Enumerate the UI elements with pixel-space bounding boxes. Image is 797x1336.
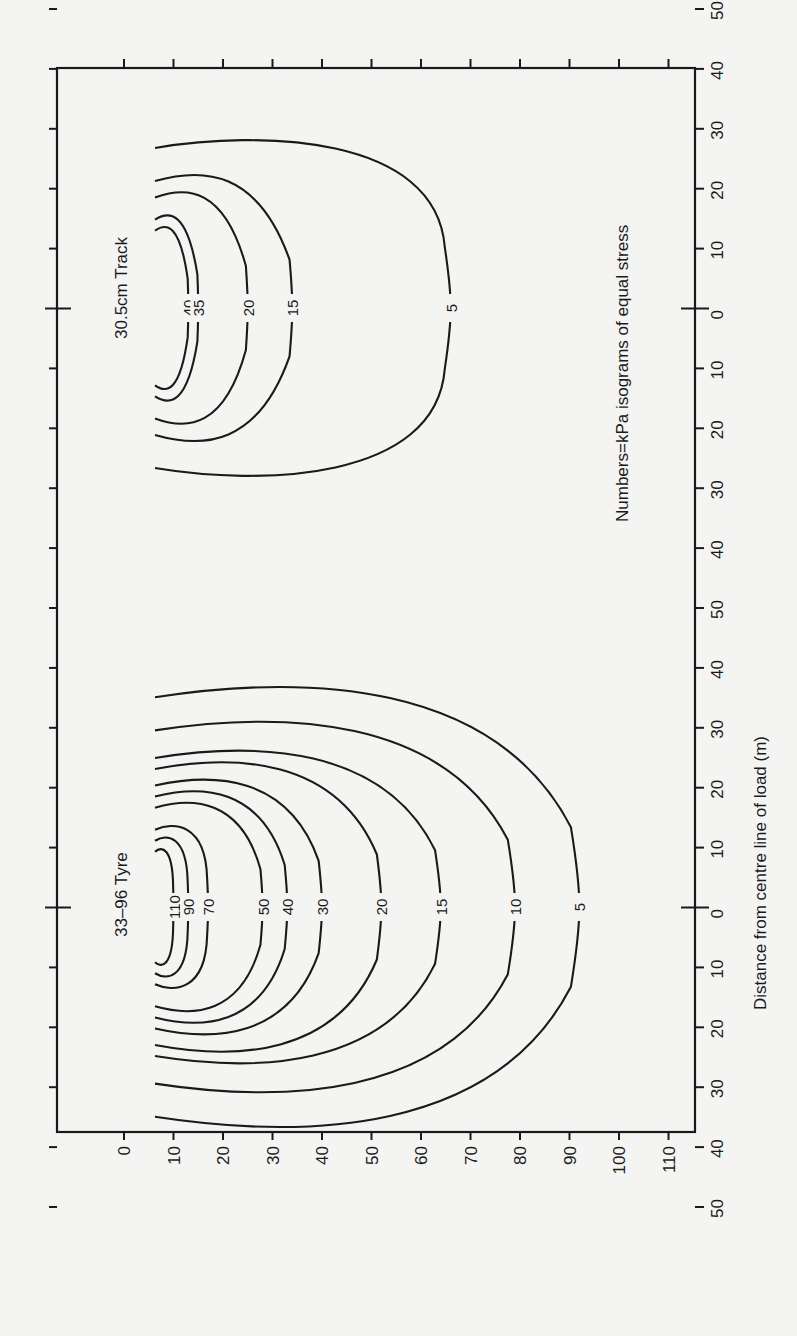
distance-tick-label: 20 xyxy=(708,1019,727,1038)
isogram-annotation: Numbers=kPa isograms of equal stress xyxy=(613,225,632,522)
distance-tick-label: 40 xyxy=(708,660,727,679)
depth-tick-label: 60 xyxy=(412,1146,431,1165)
depth-tick-label: 10 xyxy=(165,1146,184,1165)
isogram-label: 70 xyxy=(200,899,217,916)
depth-tick-label: 0 xyxy=(115,1146,134,1155)
isogram-label: 40 xyxy=(279,899,296,916)
isogram-label: 50 xyxy=(255,899,272,916)
distance-axis-ticks xyxy=(681,9,709,1207)
depth-tick-label: 90 xyxy=(561,1146,580,1165)
distance-tick-label: 0 xyxy=(708,909,727,918)
distance-tick-label: 30 xyxy=(708,1079,727,1098)
isogram-label: 20 xyxy=(373,899,390,916)
plot-frame xyxy=(57,68,695,1132)
distance-tick-label: 50 xyxy=(708,1199,727,1218)
distance-tick-label: 20 xyxy=(708,181,727,200)
isogram-label: 15 xyxy=(284,300,301,317)
depth-tick-label: 70 xyxy=(462,1146,481,1165)
distance-tick-label: 20 xyxy=(708,420,727,439)
tyre-isogram-15 xyxy=(155,751,441,1064)
tyre-label: 33–96 Tyre xyxy=(112,852,131,937)
depth-tick-label: 110 xyxy=(660,1146,679,1173)
distance-tick-label: 30 xyxy=(708,480,727,499)
distance-tick-label: 10 xyxy=(708,360,727,379)
distance-tick-label: 10 xyxy=(708,959,727,978)
distance-tick-label: 30 xyxy=(708,720,727,739)
isogram-value-labels: 11090705040302015105403520155 xyxy=(166,294,589,921)
depth-axis-ticks xyxy=(124,1132,669,1140)
isogram-label: 5 xyxy=(571,903,588,911)
distance-tick-label: 50 xyxy=(708,600,727,619)
distance-tick-label: 40 xyxy=(708,540,727,559)
distance-tick-label: 10 xyxy=(708,840,727,859)
depth-axis-tick-labels: 0102030405060708090100110 xyxy=(115,1146,679,1174)
distance-tick-label: 40 xyxy=(708,61,727,80)
distance-tick-label: 10 xyxy=(708,241,727,260)
distance-tick-label: 40 xyxy=(708,1139,727,1158)
distance-tick-label: 30 xyxy=(708,121,727,140)
distance-tick-label: 50 xyxy=(708,1,727,20)
depth-tick-label: 30 xyxy=(264,1146,283,1165)
distance-tick-label: 20 xyxy=(708,780,727,799)
isogram-label: 35 xyxy=(190,300,207,317)
depth-tick-label: 20 xyxy=(214,1146,233,1165)
distance-tick-label: 0 xyxy=(708,310,727,319)
isogram-label: 5 xyxy=(443,304,460,312)
stress-isogram-chart: 5040302010010203040504030201001020304050… xyxy=(0,0,797,1336)
isogram-label: 15 xyxy=(433,899,450,916)
isogram-label: 90 xyxy=(180,899,197,916)
depth-tick-label: 80 xyxy=(511,1146,530,1165)
isogram-label: 30 xyxy=(314,899,331,916)
depth-tick-label: 40 xyxy=(313,1146,332,1165)
depth-tick-label: 100 xyxy=(610,1146,629,1174)
depth-tick-label: 50 xyxy=(363,1146,382,1165)
distance-axis-tick-labels: 5040302010010203040504030201001020304050 xyxy=(708,1,727,1218)
top-axis-ticks xyxy=(124,59,669,68)
distance-axis-title: Distance from centre line of load (m) xyxy=(751,736,770,1010)
isogram-label: 20 xyxy=(240,300,257,317)
isogram-label: 10 xyxy=(507,899,524,916)
track-label: 30.5cm Track xyxy=(112,236,131,339)
